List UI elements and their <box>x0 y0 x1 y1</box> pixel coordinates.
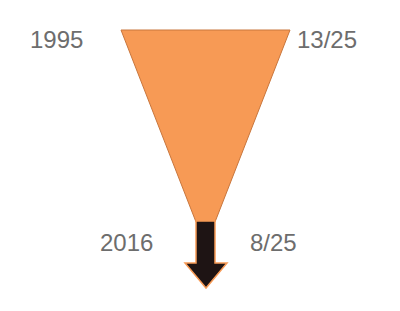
end-value-label: 8/25 <box>250 231 297 255</box>
down-arrow-icon <box>185 221 227 288</box>
start-year-label: 1995 <box>30 28 83 52</box>
start-value-label: 13/25 <box>297 28 357 52</box>
funnel-shape <box>121 30 290 222</box>
end-year-label: 2016 <box>100 231 153 255</box>
